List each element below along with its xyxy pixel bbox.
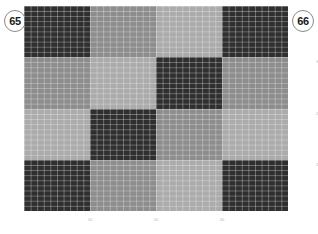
page-badge-left-label: 65 (9, 15, 21, 27)
y-tick-label-3: 10 (316, 161, 318, 166)
heatmap-block-r2-c2 (90, 57, 156, 108)
y-tick-label-2: 20 (316, 110, 318, 115)
y-tick-label-1: 30 (316, 59, 318, 64)
page-badge-right: 66 (292, 10, 314, 32)
heatmap-block-r4-c4 (222, 160, 288, 211)
heatmap-plot (24, 6, 288, 211)
heatmap-block-r3-c1 (24, 109, 90, 160)
x-tick-label-3: 30 (220, 217, 224, 222)
heatmap-block-r2-c1 (24, 57, 90, 108)
heatmap-block-r1-c1 (24, 6, 90, 57)
page-badge-left: 65 (4, 10, 26, 32)
heatmap-block-r4-c1 (24, 160, 90, 211)
heatmap-block-r3-c2 (90, 109, 156, 160)
heatmap-block-r2-c3 (156, 57, 222, 108)
heatmap-block-r4-c3 (156, 160, 222, 211)
heatmap-figure: 102030302010 (24, 6, 288, 211)
heatmap-block-r1-c2 (90, 6, 156, 57)
heatmap-block-r1-c4 (222, 6, 288, 57)
heatmap-block-r2-c4 (222, 57, 288, 108)
heatmap-block-r3-c4 (222, 109, 288, 160)
heatmap-block-r4-c2 (90, 160, 156, 211)
heatmap-block-r3-c3 (156, 109, 222, 160)
x-tick-label-1: 10 (88, 217, 92, 222)
page-badge-right-label: 66 (297, 15, 309, 27)
heatmap-block-r1-c3 (156, 6, 222, 57)
x-tick-label-2: 20 (154, 217, 158, 222)
